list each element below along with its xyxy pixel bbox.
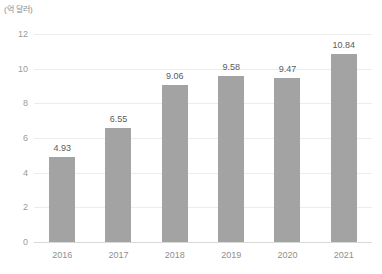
bar-chart: (억 달러) 4.936.559.069.589.4710.84 0246810… xyxy=(0,0,382,274)
y-axis-tick-label: 8 xyxy=(2,98,28,108)
x-axis-tick-label: 2018 xyxy=(165,250,185,260)
bar-slot: 10.84 xyxy=(316,34,372,242)
x-axis-tick-label: 2017 xyxy=(108,250,128,260)
x-axis-tick-label: 2019 xyxy=(221,250,241,260)
x-axis-tick-label: 2021 xyxy=(334,250,354,260)
axis-baseline xyxy=(34,242,372,243)
y-axis-tick-label: 12 xyxy=(2,29,28,39)
bar-slot: 9.47 xyxy=(259,34,315,242)
bar[interactable] xyxy=(49,157,75,242)
bar-value-label: 10.84 xyxy=(333,40,356,50)
y-axis-tick-label: 10 xyxy=(2,64,28,74)
y-axis-tick-label: 4 xyxy=(2,168,28,178)
bar-value-label: 4.93 xyxy=(53,143,71,153)
x-axis-tick-label: 2016 xyxy=(52,250,72,260)
bar[interactable] xyxy=(274,78,300,242)
bar-slot: 4.93 xyxy=(34,34,90,242)
bar[interactable] xyxy=(218,76,244,242)
bar-slot: 9.06 xyxy=(147,34,203,242)
bar-slot: 6.55 xyxy=(90,34,146,242)
bar-slot: 9.58 xyxy=(203,34,259,242)
bar-value-label: 6.55 xyxy=(110,114,128,124)
y-axis-tick-label: 2 xyxy=(2,202,28,212)
bar[interactable] xyxy=(331,54,357,242)
y-axis-tick-label: 6 xyxy=(2,133,28,143)
bar-value-label: 9.06 xyxy=(166,71,184,81)
plot-area: 4.936.559.069.589.4710.84 xyxy=(34,34,372,242)
bar-value-label: 9.47 xyxy=(279,64,297,74)
bar[interactable] xyxy=(105,128,131,242)
y-axis-tick-label: 0 xyxy=(2,237,28,247)
unit-label: (억 달러) xyxy=(4,3,33,14)
x-axis-tick-label: 2020 xyxy=(277,250,297,260)
bar-series: 4.936.559.069.589.4710.84 xyxy=(34,34,372,242)
bar-value-label: 9.58 xyxy=(222,62,240,72)
bar[interactable] xyxy=(162,85,188,242)
